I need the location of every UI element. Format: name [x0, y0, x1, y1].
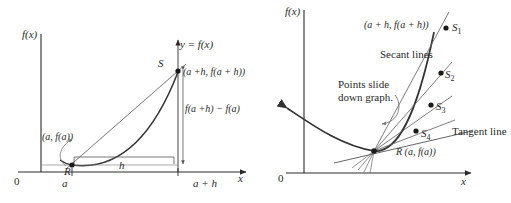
y-axis-label-left: f(x) — [22, 28, 37, 41]
function-curve-left — [72, 72, 178, 166]
left-panel-graphics — [0, 0, 256, 203]
origin-label-left: 0 — [14, 175, 20, 188]
calculus-secant-tangent-figure: f(x) 0 x y = f(x) S (a +h, f(a + h)) f(a… — [0, 0, 511, 203]
tangent-line-annotation: Tangent line — [452, 125, 507, 138]
point-R-letter: R — [64, 165, 71, 178]
point-S2-dot — [438, 70, 443, 75]
origin-label-right: 0 — [278, 172, 284, 185]
tick-label-a: a — [62, 177, 68, 190]
point-R-coords: (a, f(a)) — [42, 131, 73, 143]
curve-equation-label: y = f(x) — [180, 38, 213, 51]
fan-stroke-1 — [352, 151, 374, 168]
right-panel: f(x) 0 x (a + h, f(a + h)) S1 S2 S3 S4 S… — [256, 0, 511, 203]
point-R-label-right: R (a, f(a)) — [396, 146, 436, 158]
y-axis-label-right: f(x) — [285, 5, 300, 18]
point-R-dot-right — [371, 148, 377, 154]
point-S-coords: (a +h, f(a + h)) — [183, 66, 245, 78]
point-S3-dot — [428, 102, 433, 107]
left-panel: f(x) 0 x y = f(x) S (a +h, f(a + h)) f(a… — [0, 0, 256, 203]
points-slide-annotation: Points slidedown graph. — [338, 78, 393, 103]
rise-label: f(a +h) − f(a) — [185, 103, 240, 115]
point-S1-dot — [443, 25, 448, 30]
secant-line-RS — [66, 64, 186, 169]
x-axis-label-left: x — [238, 172, 243, 185]
run-label-h: h — [119, 159, 125, 172]
point-S4-dot — [413, 128, 418, 133]
point-S-letter: S — [158, 57, 164, 70]
point-S-dot — [175, 68, 180, 73]
point-S1-coords: (a + h, f(a + h)) — [364, 19, 429, 31]
point-S2-label: S2 — [445, 68, 454, 83]
point-S1-label: S1 — [452, 21, 461, 36]
secant-lines-annotation: Secant lines — [380, 48, 433, 61]
point-S4-label: S4 — [421, 127, 430, 142]
tick-label-a-plus-h: a + h — [193, 177, 217, 190]
x-axis-label-right: x — [461, 175, 466, 188]
point-S3-label: S3 — [436, 100, 445, 115]
